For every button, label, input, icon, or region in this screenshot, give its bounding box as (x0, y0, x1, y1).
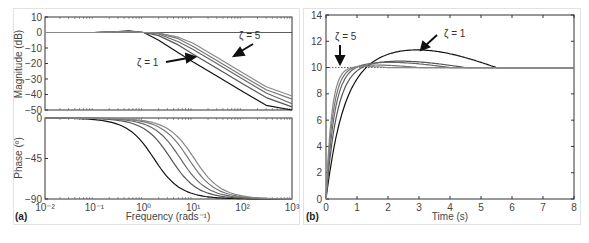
y-tick-label: −20 (25, 58, 42, 69)
x-tick-label: 6 (509, 202, 515, 213)
magnitude-ylabel: Magnitude (dB) (13, 30, 24, 98)
y-tick-label: −40 (25, 89, 42, 100)
phase-series (45, 118, 292, 199)
x-tick-label: 7 (540, 202, 546, 213)
magnitude-series (45, 32, 292, 107)
step-series (326, 61, 574, 199)
y-tick-label: 0 (36, 27, 42, 38)
step-series (326, 65, 574, 199)
mag-annotation-zeta1: ζ = 1 (137, 57, 159, 69)
x-tick-label: 5 (478, 202, 484, 213)
y-tick-label: 0 (36, 113, 42, 124)
y-tick-label: 14 (311, 10, 323, 21)
x-tick-label: 10³ (285, 202, 300, 213)
y-tick-label: 10 (311, 62, 323, 73)
y-tick-label: 0 (316, 194, 322, 205)
arrow-icon (166, 35, 437, 64)
magnitude-series (45, 32, 292, 99)
phase-series (45, 118, 292, 199)
panel-a-label: (a) (15, 211, 27, 222)
frequency-xlabel: Frequency (rads⁻¹) (126, 211, 210, 222)
x-tick-label: 8 (571, 202, 577, 213)
y-tick-label: −10 (25, 43, 42, 54)
x-tick-label: 10⁻¹ (85, 202, 105, 213)
step-annotation-zeta5: ζ = 5 (335, 31, 357, 43)
phase-series (45, 118, 292, 199)
x-tick-label: 10² (235, 202, 250, 213)
magnitude-series (45, 31, 292, 110)
magnitude-series (45, 32, 292, 104)
step-series (326, 62, 574, 199)
x-tick-label: 10⁻² (35, 202, 55, 213)
y-tick-label: 12 (311, 36, 323, 47)
x-tick-label: 1 (354, 202, 360, 213)
y-tick-label: 4 (316, 141, 322, 152)
x-tick-label: 3 (416, 202, 422, 213)
y-tick-label: −45 (25, 153, 42, 164)
x-tick-label: 0 (323, 202, 329, 213)
panel-b-label: (b) (306, 211, 319, 222)
phase-plot: 0−45−9010⁻²10⁻¹10⁰10¹10²10³ (25, 113, 300, 214)
y-tick-label: 10 (31, 12, 43, 23)
y-tick-label: 2 (316, 167, 322, 178)
y-tick-label: 8 (316, 88, 322, 99)
mag-annotation-zeta5: ζ = 5 (239, 30, 261, 42)
step-series (326, 67, 574, 200)
phase-series (45, 118, 292, 199)
phase-series (45, 118, 292, 199)
figure-canvas: 100−10−20−30−40−50 0−45−9010⁻²10⁻¹10⁰10¹… (0, 0, 589, 243)
time-xlabel: Time (s) (432, 211, 468, 222)
y-tick-label: −30 (25, 74, 42, 85)
x-tick-label: 2 (385, 202, 391, 213)
phase-ylabel: Phase (º) (13, 137, 24, 178)
step-series (326, 50, 574, 199)
y-tick-label: 6 (316, 115, 322, 126)
magnitude-plot: 100−10−20−30−40−50 (25, 12, 292, 116)
step-annotation-zeta1: ζ = 1 (444, 28, 466, 40)
